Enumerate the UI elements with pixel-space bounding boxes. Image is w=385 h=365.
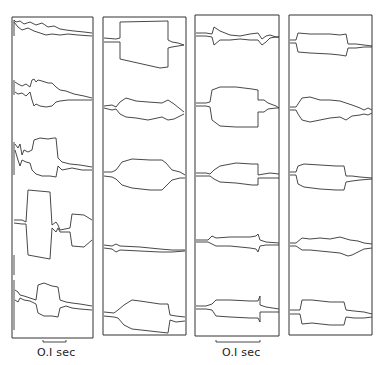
figure-canvas [0,0,385,365]
panel-4 [289,15,372,335]
scale-bar-1 [43,340,66,342]
scale-bar-label-2: O.I sec [222,346,260,359]
panel-2 [103,17,186,335]
scale-bar-label-1: O.I sec [37,346,75,359]
panel-3 [195,15,279,336]
trace [14,20,92,33]
scale-bar-2 [216,340,260,342]
panel-1 [12,17,93,338]
